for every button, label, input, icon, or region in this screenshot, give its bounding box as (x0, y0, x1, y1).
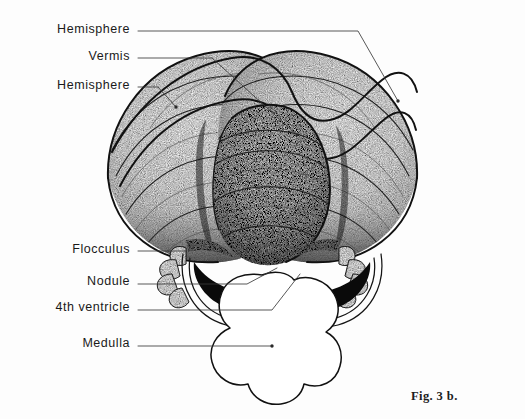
figure-page: Hemisphere Vermis Hemisphere Flocculus N… (0, 0, 525, 419)
leader-dot-hemisphere-top (396, 99, 399, 102)
label-nodule: Nodule (87, 274, 130, 288)
leader-dot-vermis (295, 133, 298, 136)
label-hemisphere-top: Hemisphere (57, 22, 130, 36)
leader-dot-hemisphere-left (174, 105, 177, 108)
vermis (210, 105, 330, 265)
label-hemisphere-left: Hemisphere (57, 78, 130, 92)
medulla-outline (211, 272, 341, 404)
label-flocculus: Flocculus (72, 242, 130, 256)
leader-dot-medulla (270, 344, 273, 347)
cerebellum-illustration: Hemisphere Vermis Hemisphere Flocculus N… (0, 0, 525, 419)
label-vermis: Vermis (88, 49, 130, 63)
label-fourth-ventricle: 4th ventricle (55, 300, 130, 314)
figure-caption: Fig. 3 b. (411, 389, 458, 403)
cerebellum-body (96, 51, 429, 280)
label-medulla: Medulla (82, 336, 130, 350)
